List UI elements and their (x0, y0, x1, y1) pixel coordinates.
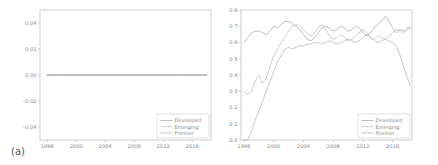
x-tick-label: 2016 (386, 143, 399, 149)
y-tick-label: 0.7 (229, 23, 237, 29)
y-tick-label: 0.5 (229, 56, 237, 62)
x-tick-label: 2004 (297, 143, 311, 149)
panel-a: -0.04-0.020.000.020.04199620002004200820… (0, 0, 219, 165)
x-tick-label: 2000 (70, 143, 83, 149)
figure-two-panel-line-charts: -0.04-0.020.000.020.04199620002004200820… (0, 0, 438, 165)
panel-b-plot: 0.00.10.20.30.40.50.60.70.81996200020042… (219, 0, 438, 165)
y-tick-label: 0.8 (229, 7, 237, 13)
x-tick-label: 2008 (128, 143, 141, 149)
y-tick-label: 0.4 (229, 72, 238, 78)
y-tick-label: 0.0 (229, 137, 237, 143)
x-tick-label: 1996 (41, 143, 54, 149)
x-tick-label: 2004 (99, 143, 113, 149)
x-tick-label: 2012 (157, 143, 170, 149)
y-tick-label: 0.04 (25, 20, 37, 26)
panel-a-label: (a) (11, 146, 25, 157)
x-tick-label: 2012 (356, 143, 369, 149)
legend-label-frontier: Frontier (376, 130, 396, 136)
legend-label-frontier: Frontier (175, 130, 195, 136)
y-tick-label: 0.02 (25, 46, 37, 52)
y-tick-label: 0.3 (229, 88, 237, 94)
x-tick-label: 1996 (237, 143, 250, 149)
y-tick-label: 0.2 (229, 104, 237, 110)
y-tick-label: 0.6 (229, 39, 237, 45)
x-tick-label: 2016 (186, 143, 199, 149)
y-tick-label: -0.02 (23, 98, 36, 104)
y-tick-label: 0.00 (25, 72, 37, 78)
panel-a-plot: -0.04-0.020.000.020.04199620002004200820… (0, 0, 219, 165)
x-tick-label: 2008 (327, 143, 340, 149)
y-tick-label: 0.1 (229, 121, 237, 127)
panel-b: 0.00.10.20.30.40.50.60.70.81996200020042… (219, 0, 438, 165)
y-tick-label: -0.04 (23, 124, 37, 130)
x-tick-label: 2000 (267, 143, 280, 149)
